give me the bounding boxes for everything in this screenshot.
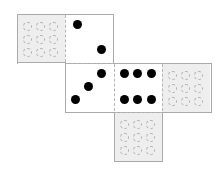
face-blank-far-right (162, 63, 210, 112)
ghost-pip-icon (36, 35, 45, 44)
ghost-pip-icon (23, 22, 32, 31)
ghost-pip-icon (23, 35, 32, 44)
ghost-pip-icon (133, 133, 142, 142)
pip-icon (147, 95, 156, 104)
ghost-pip-icon (133, 120, 142, 129)
pip-icon (120, 69, 129, 78)
ghost-pip-icon (168, 97, 177, 106)
ghost-pip-icon (49, 22, 58, 31)
face-blank-top-left (17, 14, 65, 63)
ghost-pip-icon (49, 35, 58, 44)
ghost-pip-icon (146, 146, 155, 155)
ghost-pip-icon (181, 97, 190, 106)
ghost-pip-icon (146, 120, 155, 129)
ghost-pip-icon (36, 22, 45, 31)
face-six (114, 63, 162, 112)
ghost-pip-icon (194, 97, 203, 106)
ghost-pip-icon (181, 84, 190, 93)
pip-icon (73, 20, 82, 29)
ghost-pip-icon (194, 71, 203, 80)
ghost-pip-icon (168, 71, 177, 80)
pip-icon (133, 69, 142, 78)
pip-icon (97, 45, 106, 54)
ghost-pip-icon (181, 71, 190, 80)
ghost-pip-icon (49, 48, 58, 57)
pip-icon (97, 69, 106, 78)
face-three (65, 63, 113, 112)
pip-icon (133, 95, 142, 104)
pip-icon (147, 69, 156, 78)
ghost-pip-icon (194, 84, 203, 93)
pip-icon (71, 95, 80, 104)
pip-icon (84, 82, 93, 91)
ghost-pip-icon (120, 120, 129, 129)
ghost-pip-icon (120, 146, 129, 155)
ghost-pip-icon (120, 133, 129, 142)
ghost-pip-icon (36, 48, 45, 57)
ghost-pip-icon (168, 84, 177, 93)
ghost-pip-icon (133, 146, 142, 155)
face-two (65, 14, 113, 63)
face-blank-bottom (114, 112, 162, 161)
ghost-pip-icon (146, 133, 155, 142)
pip-icon (120, 95, 129, 104)
ghost-pip-icon (23, 48, 32, 57)
